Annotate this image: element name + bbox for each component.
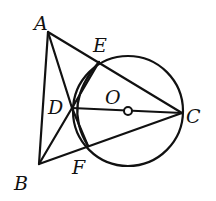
arc-edf: [77, 62, 99, 146]
geometry-diagram: A B C D E F O: [0, 0, 216, 201]
segment-de: [72, 62, 99, 108]
segment-ab: [39, 32, 48, 164]
label-a: A: [32, 12, 48, 34]
label-f: F: [71, 156, 86, 178]
center-o-marker: [124, 107, 132, 115]
label-e: E: [92, 34, 107, 56]
label-b: B: [13, 172, 28, 194]
label-o: O: [105, 86, 121, 108]
label-d: D: [47, 96, 63, 118]
label-c: C: [186, 105, 201, 127]
